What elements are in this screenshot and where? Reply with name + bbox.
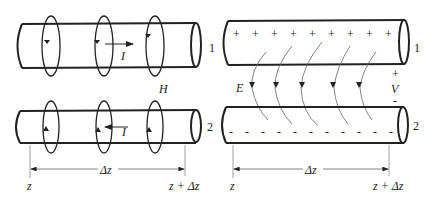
dz-label-right: Δz (304, 163, 317, 177)
svg-text:+: + (233, 27, 240, 41)
svg-text:+: + (328, 27, 335, 41)
svg-text:-: - (261, 125, 265, 139)
svg-text:+: + (347, 27, 354, 41)
z-plus-dz-label-right: z + Δz (372, 179, 404, 193)
conductor-2-right (222, 107, 408, 143)
svg-text:+: + (252, 27, 259, 41)
e-field-arrows (249, 82, 362, 88)
negative-charges: - - - - - - - - - - - (229, 125, 393, 139)
svg-text:-: - (309, 125, 313, 139)
svg-text:-: - (277, 125, 281, 139)
svg-text:+: + (309, 27, 316, 41)
svg-text:-: - (389, 125, 393, 139)
svg-text:-: - (373, 125, 377, 139)
z-plus-dz-label-left: z + Δz (168, 179, 200, 193)
svg-text:-: - (245, 125, 249, 139)
voltage-plus: + (392, 67, 399, 81)
svg-text:-: - (229, 125, 233, 139)
z-label-left: z (26, 179, 32, 193)
e-field-label: E (235, 81, 244, 95)
voltage-minus: - (393, 94, 397, 108)
conductor-2-label-left: 2 (207, 120, 213, 134)
h-field-label: H (158, 82, 169, 96)
left-panel-magnetic: 1 I H 2 I (16, 16, 215, 193)
transmission-line-diagram: 1 I H 2 I (0, 0, 431, 200)
svg-text:-: - (293, 125, 297, 139)
svg-text:+: + (385, 27, 392, 41)
svg-text:-: - (357, 125, 361, 139)
z-label-right: z (229, 179, 235, 193)
h-field-loops-bottom (43, 101, 163, 153)
right-panel-electric: 1 + + + + + + + + + E (222, 20, 420, 193)
svg-text:+: + (271, 27, 278, 41)
current-label-top: I (120, 49, 126, 63)
dz-label-left: Δz (99, 163, 112, 177)
conductor-1-label-right: 1 (414, 41, 420, 55)
svg-text:+: + (290, 27, 297, 41)
svg-text:-: - (341, 125, 345, 139)
svg-text:+: + (366, 27, 373, 41)
svg-text:-: - (325, 125, 329, 139)
positive-charges: + + + + + + + + + (233, 27, 392, 41)
conductor-1-label-left: 1 (209, 41, 215, 55)
conductor-1-left (18, 23, 202, 68)
conductor-2-label-right: 2 (413, 119, 419, 133)
